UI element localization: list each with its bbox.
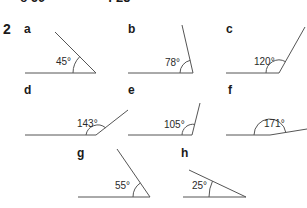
- angle-value-g: 55°: [115, 181, 130, 191]
- angle-value-d: 143°: [77, 119, 98, 129]
- angle-value-f: 171°: [264, 119, 285, 129]
- angle-value-e: 105°: [164, 120, 185, 130]
- angle-diagram-b: [128, 25, 193, 73]
- angle-value-h: 25°: [192, 181, 207, 191]
- angle-diagrams: [0, 0, 307, 208]
- angle-value-b: 78°: [165, 58, 180, 68]
- angle-value-c: 120°: [254, 57, 275, 67]
- angle-value-a: 45°: [56, 57, 71, 67]
- angle-diagram-g: [78, 149, 150, 197]
